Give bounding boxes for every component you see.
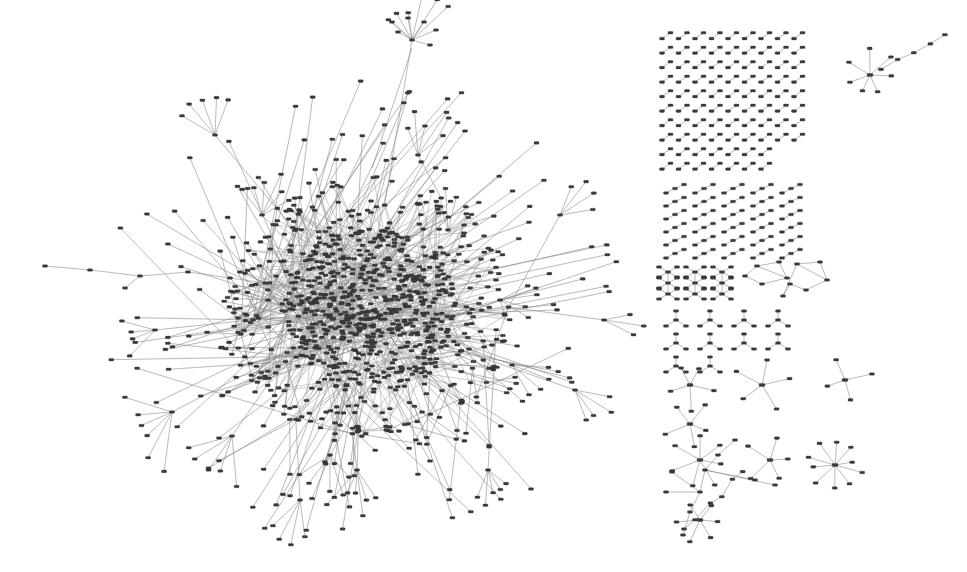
edge-layer <box>45 0 945 545</box>
network-graph <box>0 0 967 572</box>
figure-canvas <box>0 0 967 572</box>
